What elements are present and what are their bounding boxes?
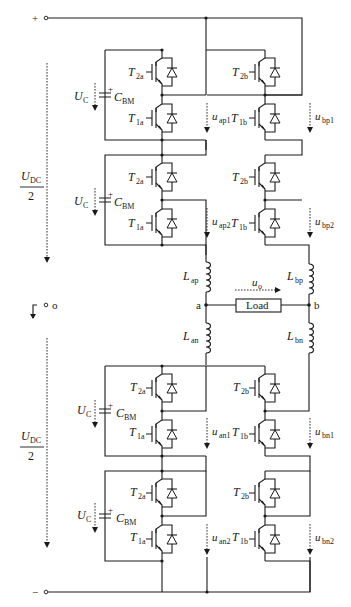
midpoint-label: o <box>52 299 58 311</box>
svg-text:1a: 1a <box>136 223 144 232</box>
svg-text:2: 2 <box>28 189 34 203</box>
svg-text:1a: 1a <box>138 537 146 546</box>
positive-sign: + <box>32 12 38 24</box>
svg-text:u: u <box>315 531 321 543</box>
svg-text:2a: 2a <box>138 387 146 396</box>
svg-text:T: T <box>233 380 241 394</box>
svg-text:an: an <box>191 336 199 345</box>
svg-text:+: + <box>108 84 113 94</box>
svg-text:1b: 1b <box>240 432 248 441</box>
svg-text:+: + <box>108 189 113 199</box>
svg-text:ap1: ap1 <box>219 116 231 125</box>
svg-text:bp1: bp1 <box>322 116 334 125</box>
svg-text:T: T <box>232 170 240 184</box>
svg-text:+: + <box>108 400 113 410</box>
svg-text:C: C <box>86 410 91 419</box>
arm-voltage-bp1: u bp1 <box>310 103 334 130</box>
submodule-ap1: + C BM U C T 2a T 1a <box>74 48 206 150</box>
arm-voltage-bn1: u bn1 <box>310 418 334 446</box>
svg-text:T: T <box>130 485 138 499</box>
svg-text:an2: an2 <box>219 537 231 546</box>
svg-text:T: T <box>231 111 239 125</box>
svg-text:u: u <box>315 110 321 122</box>
negative-terminal: − <box>32 557 310 598</box>
svg-text:DC: DC <box>30 436 41 445</box>
inductor-lap: L ap <box>182 245 211 305</box>
svg-text:L: L <box>182 329 190 343</box>
mmc-circuit-diagram: + − U DC 2 U DC 2 o <box>0 0 351 607</box>
svg-text:u: u <box>315 215 321 227</box>
svg-text:1a: 1a <box>136 118 144 127</box>
svg-text:an1: an1 <box>219 431 231 440</box>
svg-text:C: C <box>86 515 91 524</box>
svg-text:T: T <box>128 216 136 230</box>
svg-text:bp: bp <box>295 276 303 285</box>
svg-text:a: a <box>196 299 201 311</box>
submodule-bn1: T 2b T 1b <box>232 365 310 471</box>
svg-text:T: T <box>232 530 240 544</box>
svg-text:ap: ap <box>191 276 199 285</box>
svg-text:L: L <box>286 269 294 283</box>
svg-text:2b: 2b <box>240 177 248 186</box>
inductor-lbp: L bp <box>286 264 314 305</box>
svg-text:T: T <box>130 530 138 544</box>
svg-text:T: T <box>231 216 239 230</box>
svg-text:bp2: bp2 <box>322 221 334 230</box>
svg-text:T: T <box>232 425 240 439</box>
svg-text:1b: 1b <box>239 118 247 127</box>
svg-text:ap2: ap2 <box>219 221 231 230</box>
svg-text:BM: BM <box>124 518 136 527</box>
negative-sign: − <box>32 586 38 598</box>
submodule-bp2: T 2b T 1b <box>231 155 309 264</box>
svg-text:2: 2 <box>28 449 34 463</box>
svg-text:T: T <box>233 485 241 499</box>
inductor-lan: L an <box>182 305 211 365</box>
svg-text:2a: 2a <box>136 72 144 81</box>
svg-text:1a: 1a <box>137 432 145 441</box>
svg-text:o: o <box>258 282 262 291</box>
svg-text:u: u <box>212 110 218 122</box>
svg-text:2b: 2b <box>241 387 249 396</box>
arm-voltage-an2: u an2 <box>207 524 231 552</box>
svg-text:u: u <box>212 531 218 543</box>
svg-text:BM: BM <box>124 413 136 422</box>
submodule-an1: + C BM U C T 2a T 1a <box>77 364 265 457</box>
svg-text:BM: BM <box>122 202 134 211</box>
svg-text:2a: 2a <box>138 492 146 501</box>
svg-text:1b: 1b <box>239 223 247 232</box>
arm-voltage-an1: u an1 <box>207 418 231 446</box>
svg-text:b: b <box>314 299 320 311</box>
svg-text:DC: DC <box>30 176 41 185</box>
svg-text:bn2: bn2 <box>322 537 334 546</box>
svg-text:u: u <box>212 215 218 227</box>
submodule-an2: + C BM U C T 2a T 1a <box>77 456 206 592</box>
submodule-ap2: + C BM U C T 2a T 1a <box>74 140 206 255</box>
lower-dc-link-voltage: U DC 2 <box>20 338 47 545</box>
arm-voltage-bp2: u bp2 <box>310 208 334 235</box>
submodule-bp1: T 2b T 1b <box>206 50 302 155</box>
svg-text:2a: 2a <box>136 177 144 186</box>
svg-text:bn: bn <box>295 336 303 345</box>
load-label: Load <box>246 299 269 311</box>
svg-text:T: T <box>128 65 136 79</box>
upper-dc-link-voltage: U DC 2 <box>20 63 47 260</box>
svg-text:bn1: bn1 <box>322 431 334 440</box>
svg-text:T: T <box>129 425 137 439</box>
positive-terminal: + <box>32 12 302 95</box>
midpoint-terminal: o <box>30 299 58 319</box>
svg-text:2b: 2b <box>241 492 249 501</box>
svg-text:T: T <box>128 111 136 125</box>
svg-text:BM: BM <box>122 97 134 106</box>
svg-text:C: C <box>83 201 88 210</box>
svg-text:L: L <box>286 329 294 343</box>
svg-text:T: T <box>130 380 138 394</box>
inductor-lbn: L bn <box>286 305 314 365</box>
arm-voltage-ap2: u ap2 <box>207 208 231 235</box>
svg-text:C: C <box>83 96 88 105</box>
svg-text:+: + <box>108 505 113 515</box>
submodule-bn2: T 2b T 1b <box>232 471 310 592</box>
arm-voltage-ap1: u ap1 <box>207 103 231 130</box>
svg-text:T: T <box>128 170 136 184</box>
svg-text:2b: 2b <box>240 72 248 81</box>
arm-voltage-bn2: u bn2 <box>310 524 334 552</box>
